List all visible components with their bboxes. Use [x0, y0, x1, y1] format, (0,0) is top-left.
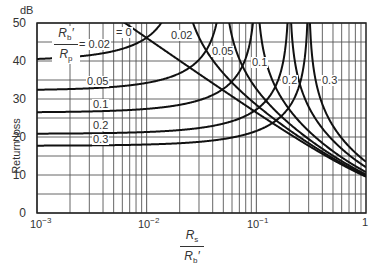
curve-0.02 — [180, 0, 366, 176]
curve-0.3 — [37, 0, 308, 146]
x-tick-1: 1 — [362, 216, 368, 228]
curve-0.05 — [224, 0, 366, 175]
fraction-numerator: Rb′ — [58, 26, 73, 42]
fraction-bar — [180, 246, 204, 247]
fraction-denominator: Rb′ — [184, 249, 199, 263]
curve-label-0-2-left: 0.2 — [92, 120, 109, 131]
curve-label-0-02-legend: = 0.02 — [78, 39, 111, 50]
fraction-numerator: Rs — [186, 228, 199, 244]
legend-parameter-fraction: Rb′ Rp — [52, 26, 80, 64]
curve-label-0-2: 0.2 — [281, 75, 298, 86]
curve-label-0: = 0 — [115, 27, 133, 38]
y-axis-label: Return loss — [10, 118, 22, 174]
curve-label-0-05: 0.05 — [211, 46, 234, 57]
x-tick-1e-3: 10−3 — [30, 216, 51, 230]
curve-label-0-05-left: 0.05 — [86, 76, 109, 87]
curve-label-0-3: 0.3 — [321, 75, 338, 86]
curve-label-0-02: 0.02 — [170, 30, 193, 41]
fraction-denominator: Rp — [59, 47, 72, 63]
y-tick-30: 30 — [4, 92, 26, 106]
y-tick-0: 0 — [4, 206, 26, 220]
y-tick-40: 40 — [4, 54, 26, 68]
y-tick-50: 50 — [4, 16, 26, 30]
fraction-bar — [54, 44, 78, 45]
curve-label-0-1: 0.1 — [251, 57, 268, 68]
unit-label: dB — [20, 4, 33, 16]
x-axis-label-fraction: Rs Rb′ — [180, 228, 204, 263]
x-tick-1e-2: 10−2 — [138, 216, 159, 230]
x-tick-1e-1: 10−1 — [247, 216, 268, 230]
curve-label-0-3-left: 0.3 — [92, 134, 109, 145]
curve-label-0-1-left: 0.1 — [92, 99, 109, 110]
